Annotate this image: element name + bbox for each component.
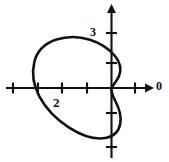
x-axis-tick-label-2: 2 bbox=[53, 96, 60, 109]
y-axis-arrow-icon bbox=[107, 4, 116, 13]
polar-plot-canvas bbox=[0, 0, 169, 162]
y-axis-tick-label-3: 3 bbox=[90, 26, 96, 38]
polar-axis-end-label: 0 bbox=[156, 80, 162, 92]
x-axis-arrow-icon bbox=[145, 84, 154, 93]
polar-curve-figure: 2 3 0 bbox=[0, 0, 169, 162]
